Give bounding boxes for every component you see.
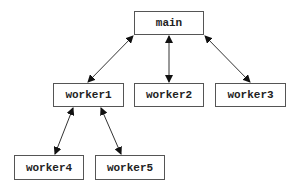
diagram-canvas: main worker1 worker2 worker3 worker4 wor… — [0, 0, 299, 194]
node-worker4-label: worker4 — [26, 162, 72, 174]
node-worker4: worker4 — [14, 155, 84, 180]
node-worker5: worker5 — [95, 155, 165, 180]
node-worker5-label: worker5 — [107, 162, 153, 174]
node-worker2: worker2 — [134, 83, 204, 107]
edge-main-worker3 — [205, 36, 250, 82]
edge-main-worker1 — [88, 36, 133, 82]
edge-worker1-worker5 — [101, 108, 121, 154]
node-main: main — [134, 11, 204, 35]
node-worker1-label: worker1 — [65, 89, 111, 101]
node-main-label: main — [156, 17, 182, 29]
node-worker3-label: worker3 — [227, 89, 273, 101]
node-worker1: worker1 — [53, 83, 124, 107]
edge-worker1-worker4 — [55, 108, 73, 154]
node-worker2-label: worker2 — [146, 89, 192, 101]
node-worker3: worker3 — [215, 83, 286, 107]
